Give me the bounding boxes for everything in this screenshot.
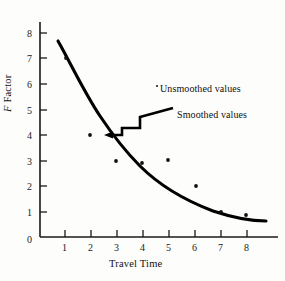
x-tick-label-2: 2 xyxy=(88,243,93,253)
x-tick-label-7: 7 xyxy=(218,243,223,253)
y-tick-label-8: 8 xyxy=(27,29,32,39)
data-point xyxy=(244,213,248,217)
smoothed-values-curve xyxy=(58,41,266,221)
unsmoothed-values-points xyxy=(64,56,248,217)
x-tick-label-3: 3 xyxy=(114,243,119,253)
axis-lines xyxy=(40,22,278,237)
y-tick-label-2: 2 xyxy=(27,182,32,192)
x-tick-label-1: 1 xyxy=(62,243,67,253)
y-tick-label-5: 5 xyxy=(27,106,32,116)
plot-area xyxy=(0,0,285,281)
x-axis-title: Travel Time xyxy=(109,258,162,269)
x-axis-ticks xyxy=(65,230,247,237)
data-point xyxy=(166,158,170,162)
y-axis-title: F Factor xyxy=(2,42,13,112)
data-point xyxy=(64,56,68,60)
data-point xyxy=(219,210,223,214)
data-point xyxy=(140,161,144,165)
data-point xyxy=(88,133,92,137)
x-tick-label-5: 5 xyxy=(166,243,171,253)
y-tick-label-3: 3 xyxy=(27,157,32,167)
y-axis-title-italic: F xyxy=(2,105,13,112)
legend-smoothed-label: Smoothed values xyxy=(177,109,247,120)
y-tick-label-0: 0 xyxy=(27,235,32,245)
y-axis-title-rest: Factor xyxy=(2,75,13,106)
y-tick-label-6: 6 xyxy=(27,80,32,90)
leader-arrowhead xyxy=(104,132,113,139)
data-point xyxy=(194,184,198,188)
legend-unsmoothed-label: Unsmoothed values xyxy=(160,83,241,94)
data-point xyxy=(114,159,118,163)
y-axis-ticks xyxy=(40,33,47,212)
x-tick-label-4: 4 xyxy=(140,243,145,253)
x-tick-label-6: 6 xyxy=(192,243,197,253)
x-tick-label-8: 8 xyxy=(244,243,249,253)
y-tick-label-1: 1 xyxy=(27,208,32,218)
smoothed-values-leader-line xyxy=(104,108,173,139)
y-tick-label-4: 4 xyxy=(27,131,32,141)
chart-figure: 8 7 6 5 4 3 2 1 0 1 2 3 4 5 6 7 8 F Fact… xyxy=(0,0,285,281)
y-tick-label-7: 7 xyxy=(27,54,32,64)
